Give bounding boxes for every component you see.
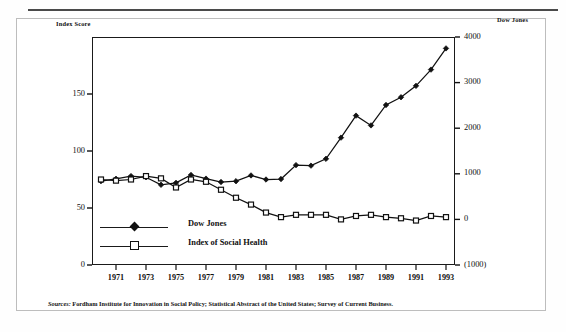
data-point-index-of-social-health bbox=[279, 215, 284, 220]
data-point-index-of-social-health bbox=[414, 218, 419, 223]
x-axis-tick-label: 1987 bbox=[340, 273, 372, 282]
legend-label-dow-jones: Dow Jones bbox=[188, 219, 226, 228]
data-point-index-of-social-health bbox=[264, 210, 269, 215]
data-point-index-of-social-health bbox=[189, 177, 194, 182]
data-point-index-of-social-health bbox=[99, 177, 104, 182]
x-axis-tick-label: 1979 bbox=[220, 273, 252, 282]
data-point-dow-jones bbox=[263, 177, 268, 182]
data-point-index-of-social-health bbox=[309, 212, 314, 217]
series-line-dow-jones bbox=[101, 48, 446, 184]
x-axis-tick-label: 1975 bbox=[160, 273, 192, 282]
data-point-dow-jones bbox=[158, 182, 163, 187]
left-axis-tick-label: 50 bbox=[52, 203, 85, 212]
data-point-index-of-social-health bbox=[174, 185, 179, 190]
data-point-index-of-social-health bbox=[339, 217, 344, 222]
figure-page: Index Score Dow Jones 050100150(1000)010… bbox=[0, 0, 566, 332]
right-axis-tick-label: 0 bbox=[464, 214, 508, 223]
chart-canvas bbox=[0, 0, 566, 332]
left-axis-tick-label: 150 bbox=[52, 89, 85, 98]
x-axis-tick-label: 1971 bbox=[100, 273, 132, 282]
x-axis-tick-label: 1973 bbox=[130, 273, 162, 282]
data-point-index-of-social-health bbox=[429, 213, 434, 218]
data-point-index-of-social-health bbox=[444, 215, 449, 220]
data-point-index-of-social-health bbox=[144, 174, 149, 179]
data-point-index-of-social-health bbox=[294, 212, 299, 217]
x-axis-tick-label: 1989 bbox=[370, 273, 402, 282]
right-axis-tick-label: 1000 bbox=[464, 168, 508, 177]
legend-label-index-of-social-health: Index of Social Health bbox=[188, 238, 267, 247]
right-axis-tick-label: (1000) bbox=[464, 260, 508, 269]
source-note-label: Sources: bbox=[48, 300, 71, 307]
data-point-index-of-social-health bbox=[234, 195, 239, 200]
x-axis-tick-label: 1993 bbox=[430, 273, 462, 282]
data-point-index-of-social-health bbox=[369, 212, 374, 217]
source-note-text: Fordham Institute for Innovation in Soci… bbox=[71, 300, 393, 307]
data-point-dow-jones bbox=[308, 163, 313, 168]
x-axis-tick-label: 1981 bbox=[250, 273, 282, 282]
data-point-index-of-social-health bbox=[399, 216, 404, 221]
data-point-index-of-social-health bbox=[324, 212, 329, 217]
data-point-dow-jones bbox=[248, 173, 253, 178]
x-axis-tick-label: 1985 bbox=[310, 273, 342, 282]
left-axis-tick-label: 0 bbox=[52, 260, 85, 269]
open-square-icon bbox=[130, 241, 139, 250]
data-point-index-of-social-health bbox=[249, 202, 254, 207]
right-axis-tick-label: 3000 bbox=[464, 77, 508, 86]
data-point-dow-jones bbox=[233, 178, 238, 183]
data-point-dow-jones bbox=[218, 179, 223, 184]
data-point-index-of-social-health bbox=[159, 176, 164, 181]
source-note: Sources: Fordham Institute for Innovatio… bbox=[48, 300, 393, 307]
x-axis-tick-label: 1991 bbox=[400, 273, 432, 282]
left-axis-tick-label: 100 bbox=[52, 146, 85, 155]
data-point-index-of-social-health bbox=[354, 213, 359, 218]
x-axis-tick-label: 1977 bbox=[190, 273, 222, 282]
data-point-index-of-social-health bbox=[384, 215, 389, 220]
data-point-index-of-social-health bbox=[219, 187, 224, 192]
series-line-index-of-social-health bbox=[101, 176, 446, 220]
data-point-index-of-social-health bbox=[204, 179, 209, 184]
right-axis-tick-label: 4000 bbox=[464, 32, 508, 41]
right-axis-tick-label: 2000 bbox=[464, 123, 508, 132]
x-axis-tick-label: 1983 bbox=[280, 273, 312, 282]
data-point-index-of-social-health bbox=[114, 178, 119, 183]
data-point-index-of-social-health bbox=[129, 177, 134, 182]
